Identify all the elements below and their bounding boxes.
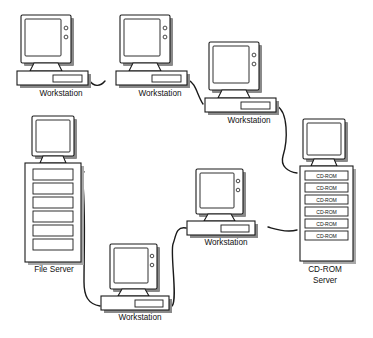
cdrom-bay-4-label: CD-ROM (316, 209, 336, 215)
workstation-5-label: Workstation (118, 313, 162, 322)
cdrom-bay-4: CD-ROM (305, 207, 348, 216)
cdrom-bay-1: CD-ROM (305, 171, 348, 180)
workstation-3-label: Workstation (227, 116, 271, 125)
cdrom-bay-6: CD-ROM (305, 231, 348, 240)
node-workstation-3[interactable]: Workstation (205, 42, 279, 125)
network-diagram: Workstation Workstation Workst (0, 0, 373, 338)
link-ws3-cdserver-cable (277, 106, 297, 173)
workstation-1-label: Workstation (39, 89, 83, 98)
node-workstation-4[interactable]: Workstation (187, 169, 258, 247)
link-ws4-ws5-cable (172, 228, 186, 306)
cdrom-bay-1-label: CD-ROM (316, 173, 336, 179)
network-topology-canvas: Workstation Workstation Workst (0, 0, 373, 338)
workstation-4-label: Workstation (204, 238, 248, 247)
link-cdserver-ws4-cable (268, 227, 297, 231)
cdrom-bay-2: CD-ROM (305, 183, 348, 192)
cdrom-bay-3-label: CD-ROM (316, 197, 336, 203)
node-cdrom-server[interactable]: CD-ROM CD-ROM CD-ROM CD-ROM CD-ROM (300, 119, 356, 285)
cdrom-bay-3: CD-ROM (305, 195, 348, 204)
link-ws5-fileserver-cable (81, 170, 100, 306)
node-file-server[interactable]: File Server (25, 116, 84, 274)
node-workstation-5[interactable]: Workstation (101, 244, 172, 322)
cdrom-bay-5: CD-ROM (305, 219, 348, 228)
node-workstation-2[interactable]: Workstation (116, 15, 190, 98)
link-ws1-ws2-cable (89, 80, 105, 85)
cdrom-bay-2-label: CD-ROM (316, 185, 336, 191)
link-ws2-ws3-cable (188, 80, 203, 104)
cdrom-server-label-line2: Server (313, 276, 337, 285)
cdrom-bay-6-label: CD-ROM (316, 233, 336, 239)
workstation-2-label: Workstation (138, 89, 182, 98)
node-workstation-1[interactable]: Workstation (17, 15, 91, 98)
file-server-label: File Server (34, 265, 74, 274)
cdrom-bay-5-label: CD-ROM (316, 221, 336, 227)
cdrom-server-label-line1: CD-ROM (308, 265, 342, 274)
